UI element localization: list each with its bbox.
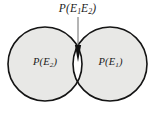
right-label-prefix: P(E bbox=[98, 56, 115, 67]
intersection-label-prefix: P(E bbox=[59, 2, 77, 14]
intersection-probability-label: P(E1E2) bbox=[0, 3, 155, 16]
intersection-label-suffix: ) bbox=[92, 2, 96, 14]
right-label-suffix: ) bbox=[119, 56, 123, 67]
venn-diagram-figure: P(E1E2) P(E2) P(E1) bbox=[0, 0, 155, 113]
left-label-suffix: ) bbox=[53, 56, 57, 67]
right-circle-probability-label: P(E1) bbox=[66, 57, 155, 69]
left-label-prefix: P(E bbox=[33, 56, 50, 67]
